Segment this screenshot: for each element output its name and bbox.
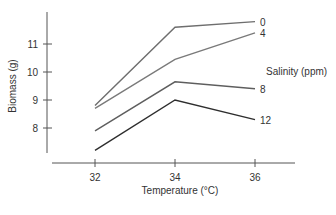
y-ticks: 891011 xyxy=(27,39,52,134)
x-tick-label: 32 xyxy=(89,172,101,183)
line-chart: 891011 323436 04812 Biomass (g) Temperat… xyxy=(0,0,336,215)
y-tick-label: 9 xyxy=(32,95,38,106)
series-lines xyxy=(95,22,255,151)
x-axis-label: Temperature (°C) xyxy=(142,185,219,196)
y-tick-label: 8 xyxy=(32,123,38,134)
y-tick-label: 10 xyxy=(27,67,39,78)
series-label: 0 xyxy=(260,17,266,28)
series-line-salinity-4 xyxy=(95,33,255,109)
axes xyxy=(47,12,295,163)
x-tick-label: 34 xyxy=(169,172,181,183)
series-label: 4 xyxy=(260,28,266,39)
series-label: 8 xyxy=(260,84,266,95)
y-axis-label: Biomass (g) xyxy=(7,59,18,112)
legend-title: Salinity (ppm) xyxy=(266,66,327,77)
series-label: 12 xyxy=(260,115,272,126)
series-line-salinity-12 xyxy=(95,100,255,150)
x-tick-label: 36 xyxy=(249,172,261,183)
y-tick-label: 11 xyxy=(28,39,39,50)
series-line-salinity-8 xyxy=(95,82,255,131)
